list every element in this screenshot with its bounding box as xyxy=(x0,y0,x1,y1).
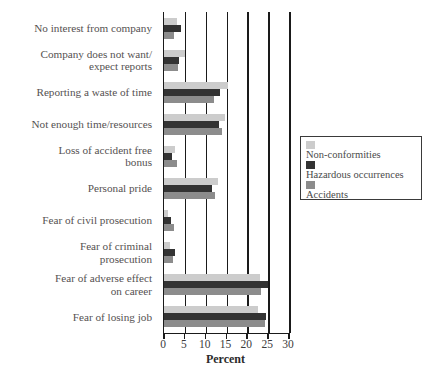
bar-group xyxy=(164,76,289,108)
legend-entry: Non-conformities xyxy=(306,141,416,160)
chart-legend: Non-conformitiesHazardous occurrencesAcc… xyxy=(300,136,422,200)
figure-horizontal-bar-chart: No interest from companyCompany does not… xyxy=(0,0,432,377)
legend-color-swatch xyxy=(306,141,315,149)
bar-group xyxy=(164,269,289,301)
bar xyxy=(164,288,261,295)
legend-label: Accidents xyxy=(306,189,416,200)
category-axis-labels: No interest from companyCompany does not… xyxy=(0,12,158,333)
legend-entry: Accidents xyxy=(306,181,416,200)
bar xyxy=(164,160,177,167)
bar xyxy=(164,82,228,89)
category-label: Reporting a waste of time xyxy=(0,76,158,108)
bar xyxy=(164,146,175,153)
category-label: Fear of civil prosecution xyxy=(0,205,158,237)
x-axis-tick-label: 30 xyxy=(276,338,300,350)
category-label: Not enough time/resources xyxy=(0,108,158,140)
bar xyxy=(164,121,219,128)
bar-group xyxy=(164,108,289,140)
bar-group xyxy=(164,237,289,269)
bar xyxy=(164,249,175,256)
bar xyxy=(164,18,177,25)
category-label: Fear of losing job xyxy=(0,301,158,333)
category-label: Fear of adverse effect on career xyxy=(0,269,158,301)
bar-group xyxy=(164,301,289,333)
legend-label: Hazardous occurrences xyxy=(306,169,416,180)
category-label: Fear of criminal prosecution xyxy=(0,237,158,269)
legend-color-swatch xyxy=(306,161,315,169)
bar xyxy=(164,114,225,121)
bar xyxy=(164,217,171,224)
bar xyxy=(164,224,174,231)
bar xyxy=(164,210,168,217)
bar xyxy=(164,64,178,71)
legend-color-swatch xyxy=(306,181,315,189)
bar xyxy=(164,185,212,192)
bar-group xyxy=(164,12,289,44)
bar xyxy=(164,25,181,32)
bar xyxy=(164,274,260,281)
bar-group xyxy=(164,172,289,204)
category-label: No interest from company xyxy=(0,12,158,44)
bar xyxy=(164,57,179,64)
bar-group xyxy=(164,140,289,172)
legend-label: Non-conformities xyxy=(306,149,416,160)
bar xyxy=(164,96,214,103)
bar-group xyxy=(164,44,289,76)
bar xyxy=(164,178,218,185)
bar xyxy=(164,306,258,313)
x-axis-title: Percent xyxy=(163,352,288,367)
bar xyxy=(164,256,173,263)
plot-area xyxy=(163,12,289,334)
legend-entry: Hazardous occurrences xyxy=(306,161,416,180)
x-axis-tick-labels: 051015202530 xyxy=(143,338,308,352)
bar xyxy=(164,50,185,57)
bar xyxy=(164,153,172,160)
bar-groups xyxy=(164,12,289,333)
bar xyxy=(164,281,268,288)
bar xyxy=(164,192,215,199)
bar xyxy=(164,320,265,327)
category-label: Personal pride xyxy=(0,172,158,204)
plot-right-border xyxy=(289,12,291,333)
bar xyxy=(164,242,170,249)
category-label: Company does not want/ expect reports xyxy=(0,44,158,76)
bar xyxy=(164,32,174,39)
bar xyxy=(164,128,222,135)
bar-group xyxy=(164,205,289,237)
bar xyxy=(164,89,220,96)
bar xyxy=(164,313,266,320)
category-label: Loss of accident free bonus xyxy=(0,140,158,172)
